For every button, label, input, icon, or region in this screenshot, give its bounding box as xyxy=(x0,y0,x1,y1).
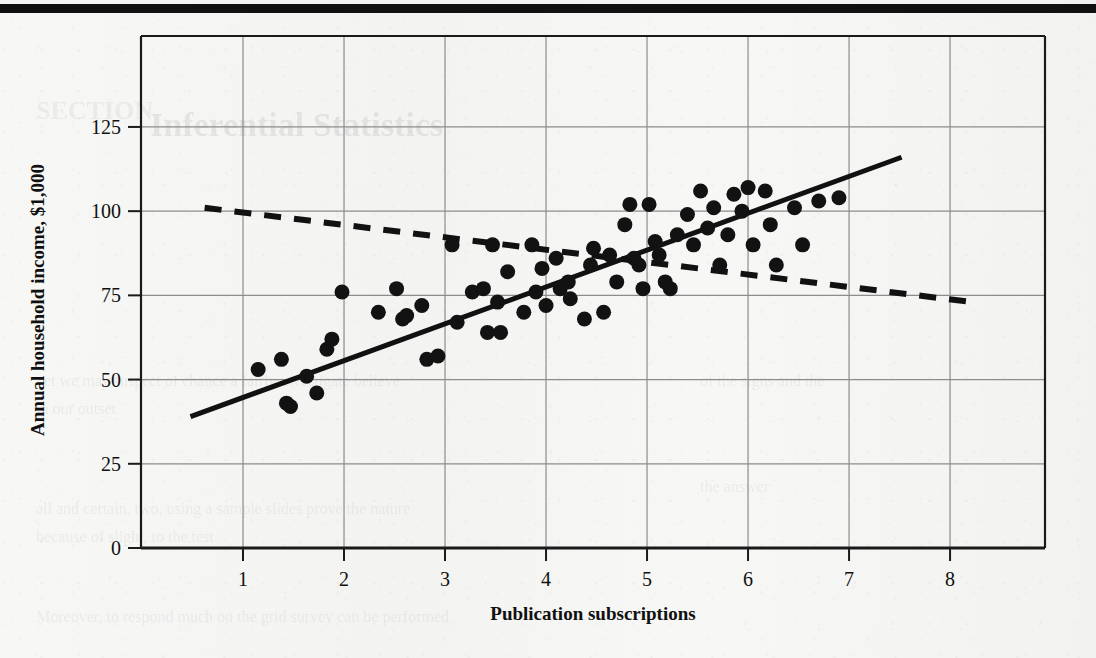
scatter-chart: 025507510012512345678 Publication subscr… xyxy=(0,0,1096,658)
data-point xyxy=(596,305,611,320)
y-tick-label: 25 xyxy=(101,453,121,475)
data-point xyxy=(561,274,576,289)
data-point xyxy=(831,190,846,205)
data-point xyxy=(490,295,505,310)
data-point xyxy=(371,305,386,320)
data-point xyxy=(500,264,515,279)
data-point xyxy=(480,325,495,340)
data-point xyxy=(485,237,500,252)
y-tick-label: 0 xyxy=(111,537,121,559)
data-point xyxy=(450,315,465,330)
tick-marks xyxy=(128,127,950,561)
data-point xyxy=(769,258,784,273)
data-point xyxy=(524,237,539,252)
plot-frame xyxy=(141,36,1045,548)
x-tick-label: 2 xyxy=(339,568,349,590)
grid-lines xyxy=(141,36,1045,548)
x-axis-title: Publication subscriptions xyxy=(490,603,695,624)
data-point xyxy=(670,227,685,242)
data-point xyxy=(734,204,749,219)
data-point xyxy=(539,298,554,313)
data-point xyxy=(430,349,445,364)
y-tick-label: 75 xyxy=(101,284,121,306)
x-tick-label: 5 xyxy=(642,568,652,590)
y-axis-title: Annual household income, $1,000 xyxy=(27,164,48,436)
data-point xyxy=(309,386,324,401)
x-tick-label: 3 xyxy=(440,568,450,590)
data-point xyxy=(516,305,531,320)
data-point xyxy=(493,325,508,340)
data-point xyxy=(324,332,339,347)
data-point xyxy=(283,399,298,414)
x-tick-label: 7 xyxy=(844,568,854,590)
data-point xyxy=(712,258,727,273)
y-tick-label: 50 xyxy=(101,369,121,391)
x-tick-label: 8 xyxy=(945,568,955,590)
data-point xyxy=(680,207,695,222)
data-points xyxy=(251,180,847,414)
data-point xyxy=(700,221,715,236)
x-tick-label: 6 xyxy=(743,568,753,590)
data-point xyxy=(476,281,491,296)
data-point xyxy=(335,285,350,300)
y-tick-label: 100 xyxy=(91,200,121,222)
data-point xyxy=(414,298,429,313)
data-point xyxy=(746,237,761,252)
data-point xyxy=(635,281,650,296)
data-point xyxy=(609,274,624,289)
data-point xyxy=(534,261,549,276)
data-point xyxy=(583,258,598,273)
x-tick-label: 4 xyxy=(541,568,551,590)
data-point xyxy=(763,217,778,232)
data-point xyxy=(795,237,810,252)
data-point xyxy=(631,258,646,273)
data-point xyxy=(811,194,826,209)
data-point xyxy=(399,308,414,323)
data-point xyxy=(602,247,617,262)
data-point xyxy=(251,362,266,377)
data-point xyxy=(758,183,773,198)
data-point xyxy=(663,281,678,296)
data-point xyxy=(528,285,543,300)
data-point xyxy=(586,241,601,256)
data-point xyxy=(686,237,701,252)
y-tick-label: 125 xyxy=(91,116,121,138)
data-point xyxy=(299,369,314,384)
data-point xyxy=(652,247,667,262)
data-point xyxy=(642,197,657,212)
data-point xyxy=(577,311,592,326)
data-point xyxy=(549,251,564,266)
data-point xyxy=(720,227,735,242)
data-point xyxy=(693,183,708,198)
data-point xyxy=(617,217,632,232)
data-point xyxy=(726,187,741,202)
chart-canvas: 025507510012512345678 Publication subscr… xyxy=(0,0,1096,658)
data-point xyxy=(622,197,637,212)
data-point xyxy=(787,200,802,215)
data-point xyxy=(648,234,663,249)
data-point xyxy=(563,291,578,306)
data-point xyxy=(445,237,460,252)
x-tick-label: 1 xyxy=(238,568,248,590)
data-point xyxy=(274,352,289,367)
data-point xyxy=(389,281,404,296)
data-point xyxy=(741,180,756,195)
data-point xyxy=(706,200,721,215)
dashed-regression-line xyxy=(205,208,973,302)
